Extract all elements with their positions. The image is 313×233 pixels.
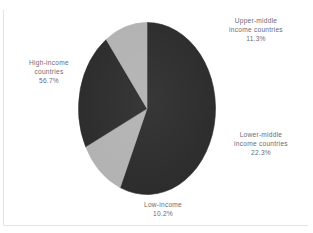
slice-label-line-2: income countries <box>206 25 306 34</box>
frame-line-bottom <box>3 225 308 226</box>
slice-label-line-1: Low-income <box>108 200 218 209</box>
slice-label-line-2: countries <box>6 67 92 76</box>
slice-label-lower-middle-income: Lower-middle income countries 22.3% <box>212 130 310 158</box>
pie-graphic <box>78 22 216 195</box>
pie-svg <box>78 22 216 195</box>
slice-label-percent: 22.3% <box>212 148 310 157</box>
slice-label-low-income: Low-income 10.2% <box>108 200 218 218</box>
slice-label-percent: 56.7% <box>6 76 92 85</box>
slice-label-line-1: High-income <box>6 58 92 67</box>
slice-label-line-1: Lower-middle <box>212 130 310 139</box>
slice-label-percent: 10.2% <box>108 209 218 218</box>
pie-paper-texture <box>79 23 216 195</box>
pie-chart-figure: Upper-middle income countries 11.3% High… <box>0 0 313 233</box>
slice-label-line-2: income countries <box>212 139 310 148</box>
slice-label-percent: 11.3% <box>206 34 306 43</box>
slice-label-line-1: Upper-middle <box>206 16 306 25</box>
slice-label-high-income: High-income countries 56.7% <box>6 58 92 86</box>
frame-line-left <box>3 10 4 225</box>
slice-label-upper-middle-income: Upper-middle income countries 11.3% <box>206 16 306 44</box>
